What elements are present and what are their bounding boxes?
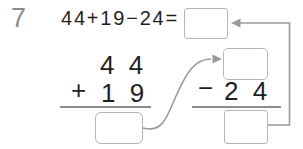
addition-rule-line bbox=[60, 106, 151, 108]
addition-top-operand: 4 4 bbox=[100, 52, 146, 78]
addition-operator: + bbox=[71, 77, 86, 103]
math-worksheet-problem: 7 44+19−24= 4 4 + 1 9 − 2 4 bbox=[0, 0, 303, 149]
equation-answer-box[interactable] bbox=[184, 8, 228, 39]
addition-bottom-operand: 1 9 bbox=[101, 80, 147, 106]
addition-result-box[interactable] bbox=[95, 112, 143, 144]
problem-number: 7 bbox=[11, 5, 26, 32]
subtraction-rule-line bbox=[192, 106, 281, 108]
subtraction-result-box[interactable] bbox=[224, 110, 268, 144]
equation-text: 44+19−24= bbox=[61, 8, 179, 28]
subtraction-subtrahend: 2 4 bbox=[224, 78, 270, 104]
subtraction-operator: − bbox=[198, 75, 213, 101]
